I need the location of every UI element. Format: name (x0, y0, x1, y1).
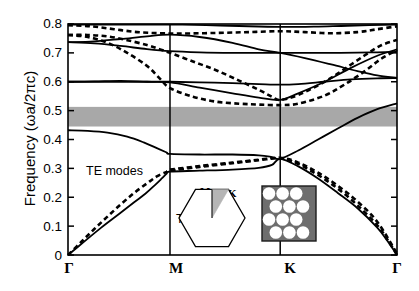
band-curve (68, 35, 397, 100)
brillouin-zone-inset (179, 189, 245, 246)
plot-canvas (0, 0, 419, 291)
crystal-lattice-inset (262, 186, 316, 241)
band-curve (68, 49, 397, 100)
photonic-band-structure-figure: Frequency (ωa/2πc) 0.8 0.7 0.6 0.5 0.4 0… (0, 0, 419, 291)
inset-diagrams (179, 186, 316, 247)
band-curve (68, 35, 397, 78)
band-curve (68, 25, 397, 27)
